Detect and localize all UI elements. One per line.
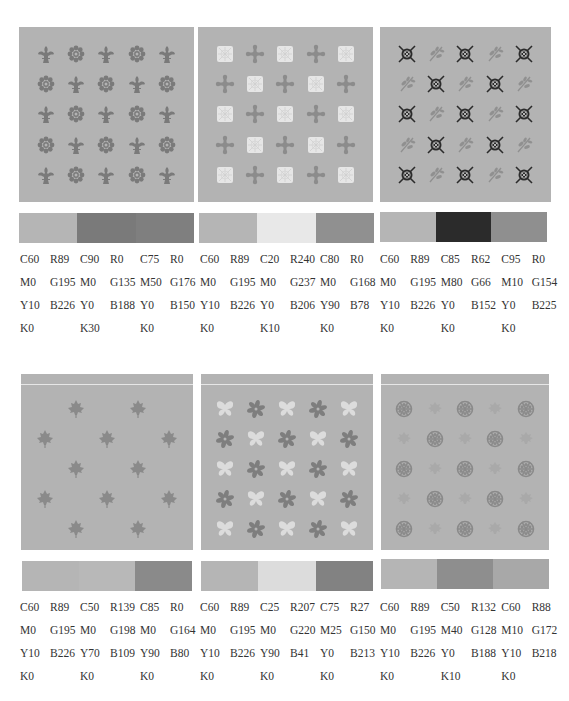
cmyk-value: M50: [140, 271, 170, 294]
swatch-3: [316, 561, 373, 591]
lace-square-icon: [210, 39, 240, 69]
snowflake-icon: [389, 454, 419, 484]
cmyk-value: C60: [200, 596, 230, 619]
rgb-value: R62: [471, 248, 501, 271]
lace-square-icon: [270, 99, 300, 129]
cmyk-value: K0: [20, 665, 50, 688]
rgb-value: R89: [230, 248, 260, 271]
cmyk-value: Y90: [320, 294, 350, 317]
rgb-value: G66: [471, 271, 501, 294]
star-flower-icon: [209, 424, 240, 454]
rgb-value: R89: [50, 596, 80, 619]
swatch-2: [77, 213, 135, 243]
rgb-value: R0: [170, 248, 200, 271]
swatch-1: [201, 561, 258, 591]
rgb-value: B41: [290, 642, 320, 665]
empty-cell: [123, 424, 154, 454]
cmyk-value: K0: [200, 317, 230, 340]
celtic-knot-icon: [451, 160, 480, 190]
rgb-value: [230, 665, 260, 688]
rgb-value: R0: [110, 248, 140, 271]
lace-square-icon: [240, 130, 270, 160]
leaf-sprig-icon: [480, 99, 509, 129]
cmyk-value: M0: [20, 619, 50, 642]
rgb-value: B109: [110, 642, 140, 665]
maple-leaf-icon: [60, 514, 91, 544]
cmyk-value: C60: [20, 248, 50, 271]
rgb-value: G195: [410, 271, 440, 294]
cmyk-value: M40: [441, 619, 471, 642]
rgb-value: B213: [350, 642, 380, 665]
snowflake-icon: [419, 424, 449, 454]
cmyk-value: C50: [441, 596, 471, 619]
color-swatch-bar: [381, 559, 549, 589]
swatch-1: [380, 212, 436, 242]
rgb-value: R88: [532, 596, 562, 619]
celtic-knot-icon: [510, 160, 539, 190]
star-flower-icon: [240, 394, 271, 424]
daisy-flower-icon: [31, 130, 61, 160]
empty-cell: [91, 454, 122, 484]
rgb-value: G195: [410, 619, 440, 642]
empty-cell: [91, 514, 122, 544]
empty-cell: [60, 484, 91, 514]
celtic-knot-icon: [392, 39, 421, 69]
cross-quatrefoil-icon: [240, 99, 270, 129]
maple-leaf-faint-icon: [450, 424, 480, 454]
lace-square-icon: [270, 160, 300, 190]
cross-quatrefoil-icon: [270, 69, 300, 99]
fleur-de-lis-icon: [31, 160, 61, 190]
cmyk-value: K0: [80, 665, 110, 688]
leaf-sprig-icon: [510, 130, 539, 160]
snowflake-icon: [389, 514, 419, 544]
swatch-2: [257, 213, 315, 243]
rgb-value: B226: [230, 294, 260, 317]
butterfly-icon: [334, 514, 365, 544]
cmyk-value: Y0: [441, 294, 471, 317]
cmyk-value: Y0: [140, 294, 170, 317]
cmyk-value: K0: [320, 317, 350, 340]
fleur-de-lis-icon: [31, 99, 61, 129]
cmyk-value: Y10: [200, 294, 230, 317]
maple-leaf-icon: [60, 394, 91, 424]
butterfly-icon: [271, 394, 302, 424]
divider: [21, 384, 193, 385]
butterfly-icon: [271, 514, 302, 544]
swatch-3: [493, 559, 549, 589]
cmyk-value: K10: [260, 317, 290, 340]
rgb-value: G154: [532, 271, 562, 294]
daisy-flower-icon: [122, 99, 152, 129]
leaf-sprig-icon: [510, 69, 539, 99]
cross-quatrefoil-icon: [270, 130, 300, 160]
cmyk-value: Y0: [260, 294, 290, 317]
fleur-de-lis-icon: [152, 39, 182, 69]
cmyk-value: K0: [200, 665, 230, 688]
cmyk-value: M0: [200, 271, 230, 294]
swatch-1: [199, 213, 257, 243]
cmyk-value: C60: [200, 248, 230, 271]
rgb-value: [350, 665, 380, 688]
snowflake-icon: [511, 394, 541, 424]
cmyk-value: M10: [501, 619, 531, 642]
rgb-value: B206: [290, 294, 320, 317]
motif-grid: [210, 39, 361, 190]
maple-leaf-icon: [91, 424, 122, 454]
maple-leaf-icon: [29, 484, 60, 514]
rgb-value: G195: [50, 271, 80, 294]
fleur-de-lis-icon: [122, 69, 152, 99]
rgb-value: G195: [230, 271, 260, 294]
cmyk-value: C85: [140, 596, 170, 619]
empty-cell: [29, 454, 60, 484]
cmyk-value: M0: [380, 271, 410, 294]
cmyk-value: Y10: [200, 642, 230, 665]
star-flower-icon: [240, 454, 271, 484]
cmyk-value: M0: [380, 619, 410, 642]
rgb-value: [290, 665, 320, 688]
rgb-value: G164: [170, 619, 200, 642]
butterfly-icon: [334, 394, 365, 424]
motif-grid: [31, 39, 182, 190]
cross-quatrefoil-icon: [301, 39, 331, 69]
cross-quatrefoil-icon: [331, 130, 361, 160]
rgb-value: [110, 665, 140, 688]
daisy-flower-icon: [61, 39, 91, 69]
